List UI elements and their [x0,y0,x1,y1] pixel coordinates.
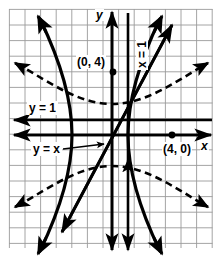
point-marker-4-0 [169,132,176,139]
point-label-4-0: (4, 0) [162,142,192,156]
point-label-0-4: (0, 4) [76,55,106,69]
y-axis-label: y [95,9,104,21]
point-marker-0-4 [110,69,117,76]
graph-figure: y x (0, 4) (4, 0) y = 1 y = x x = 1 [0,0,222,265]
graph-canvas [0,0,222,265]
label-y-equals-1: y = 1 [27,101,58,115]
label-y-equals-x: y = x [31,142,62,156]
label-x-equals-1: x = 1 [136,39,148,70]
x-axis-label: x [200,140,209,152]
